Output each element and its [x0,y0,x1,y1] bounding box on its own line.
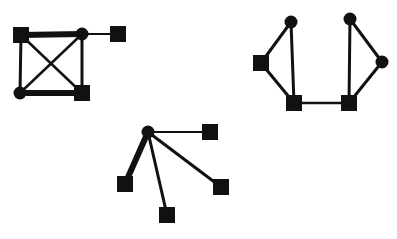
circle-node [285,16,298,29]
edge-f-h [291,22,294,103]
square-node [159,207,175,223]
star-graph-edges [125,132,221,215]
nodes-layer [13,13,389,224]
edge-a-d [20,35,21,93]
square-node [213,179,229,195]
circle-node [142,126,155,139]
square-node [13,27,29,43]
complete-graph-with-pendant-edges [20,34,118,93]
star-graph-nodes [117,124,229,223]
square-node [341,95,357,111]
circle-node [376,56,389,69]
square-node [202,124,218,140]
graph-diagram-canvas [0,0,397,239]
circle-node [76,28,89,41]
circle-node [14,87,27,100]
square-node [253,55,269,71]
edge-a-b [21,34,82,35]
square-node [117,176,133,192]
edges-layer [20,19,382,215]
circle-node [344,13,357,26]
square-node [110,26,126,42]
square-node [74,85,90,101]
two-triangles-bridge-edges [261,19,382,103]
edge-j-k [350,19,382,62]
square-node [286,95,302,111]
two-triangles-bridge-nodes [253,13,389,112]
edge-j-i [349,19,350,103]
